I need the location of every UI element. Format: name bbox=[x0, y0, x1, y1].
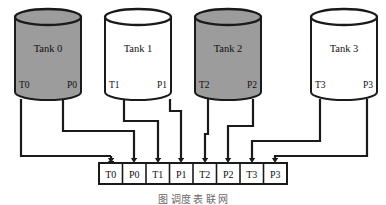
register-cell-0: T0 bbox=[105, 169, 116, 180]
tank-0-top-ellipse bbox=[15, 9, 81, 25]
tank-0-press-port-label: P0 bbox=[67, 80, 77, 90]
tank-0-temp-port-label: T0 bbox=[19, 80, 30, 90]
connector-p2 bbox=[228, 99, 253, 160]
register-cell-4: T2 bbox=[199, 169, 210, 180]
tank-3-temp-port-label: T3 bbox=[315, 80, 326, 90]
tank-1-temp-port-label: T1 bbox=[109, 80, 120, 90]
tank-0[interactable]: Tank 0 T0 P0 bbox=[15, 9, 81, 100]
tank-2-press-port-label: P2 bbox=[247, 80, 257, 90]
register-cell-3: P1 bbox=[176, 169, 187, 180]
tank-1[interactable]: Tank 1 T1 P1 bbox=[105, 9, 171, 100]
connector-t3 bbox=[252, 99, 320, 160]
connector-p1 bbox=[170, 99, 181, 160]
tank-0-label: Tank 0 bbox=[34, 43, 63, 54]
tank-3-label: Tank 3 bbox=[330, 43, 359, 54]
connector-t2 bbox=[205, 99, 208, 160]
register-cell-6: T3 bbox=[246, 169, 257, 180]
register-cell-5: P2 bbox=[223, 169, 234, 180]
tank-1-top-ellipse bbox=[105, 9, 171, 25]
tank-1-label: Tank 1 bbox=[124, 43, 153, 54]
tank-1-press-port-label: P1 bbox=[157, 80, 167, 90]
tank-3[interactable]: Tank 3 T3 P3 bbox=[311, 9, 377, 100]
register-cell-1: P0 bbox=[129, 169, 140, 180]
register-row[interactable]: T0 P0 T1 P1 T2 P2 T3 P3 bbox=[99, 163, 287, 184]
tank-3-top-ellipse bbox=[311, 9, 377, 25]
tank-2-label: Tank 2 bbox=[214, 43, 243, 54]
tank-2[interactable]: Tank 2 T2 P2 bbox=[195, 9, 261, 100]
tank-3-press-port-label: P3 bbox=[363, 80, 373, 90]
diagram-svg: Tank 0 T0 P0 Tank 1 T1 P1 Tank 2 T2 P2 T… bbox=[0, 0, 386, 205]
diagram-caption: 图 调度 表 联 网 bbox=[158, 193, 228, 205]
diagram-canvas: Tank 0 T0 P0 Tank 1 T1 P1 Tank 2 T2 P2 T… bbox=[0, 0, 386, 205]
connector-t1 bbox=[124, 99, 158, 160]
register-cell-7: P3 bbox=[270, 169, 281, 180]
tank-2-top-ellipse bbox=[195, 9, 261, 25]
tank-2-temp-port-label: T2 bbox=[199, 80, 210, 90]
register-cell-2: T1 bbox=[152, 169, 163, 180]
connector-t0 bbox=[21, 99, 111, 156]
